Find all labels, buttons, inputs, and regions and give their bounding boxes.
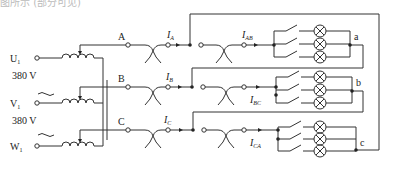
lamp-icon <box>314 51 326 63</box>
current-arrow-icon <box>176 43 180 47</box>
current-arrow-icon <box>178 85 182 89</box>
lamp-icon <box>314 25 326 37</box>
node-c-label: c <box>360 137 365 148</box>
ammeter-socket-icon <box>218 87 242 105</box>
autotransformer-coil-v <box>62 99 94 103</box>
current-label-iab: IAB <box>241 29 253 41</box>
lamp-icon <box>314 133 326 145</box>
terminal-v1 <box>35 101 39 105</box>
ac-symbol-icon <box>38 93 54 96</box>
lamp-icon <box>314 121 326 133</box>
source-phase-w: W1 <box>10 141 103 153</box>
current-label-ibc: IBC <box>249 94 262 106</box>
lamp-icon <box>314 97 326 109</box>
load-group-c: c <box>276 121 365 157</box>
lamp-icon <box>314 71 326 83</box>
line-c-row: IC ICA <box>126 114 278 149</box>
return-wire-b-to-c <box>193 91 363 130</box>
ammeter-socket-icon <box>145 87 166 105</box>
current-label-ic: IC <box>163 114 172 126</box>
return-wire-a-to-b <box>192 45 363 87</box>
ammeter-socket-icon <box>145 45 166 63</box>
current-label-ia: IA <box>166 29 174 41</box>
autotransformer-coil-w <box>62 142 94 146</box>
line-a-row: IA IAB <box>126 29 274 63</box>
current-arrow-icon <box>254 43 258 47</box>
current-label-ica: ICA <box>249 137 261 149</box>
ammeter-socket-icon <box>218 130 242 148</box>
terminal-w1 <box>35 144 39 148</box>
node-a-label: a <box>354 31 359 42</box>
lamp-icon <box>314 145 326 157</box>
current-arrow-icon <box>258 128 262 132</box>
load-group-b: b <box>274 71 361 109</box>
current-arrow-icon <box>179 128 183 132</box>
current-label-ib: IB <box>165 71 173 83</box>
voltage-label-vw: 380 V <box>12 115 37 126</box>
current-arrow-icon <box>256 85 260 89</box>
line-c-label: C <box>118 116 125 127</box>
line-b-label: B <box>118 73 125 84</box>
lamp-icon <box>314 84 326 96</box>
phase-w-label: W1 <box>10 141 22 153</box>
ac-symbol-icon <box>38 134 54 137</box>
line-b-row: IB IBC <box>126 71 276 106</box>
terminal-u1 <box>35 56 39 60</box>
lamp-icon <box>314 38 326 50</box>
source-phase-v: V1 <box>10 98 103 110</box>
ammeter-socket-icon <box>145 130 166 148</box>
node-b-label: b <box>356 77 361 88</box>
voltage-label-uv: 380 V <box>12 70 37 81</box>
phase-u-label: U1 <box>10 53 20 65</box>
load-group-a: a <box>272 25 359 63</box>
phase-v-label: V1 <box>10 98 20 110</box>
three-phase-circuit-diagram: U1 380 V V1 380 V W1 A B C <box>0 0 394 171</box>
line-a-label: A <box>118 31 126 42</box>
autotransformer-coil-u <box>62 54 94 58</box>
tap-wire-a <box>80 45 126 51</box>
